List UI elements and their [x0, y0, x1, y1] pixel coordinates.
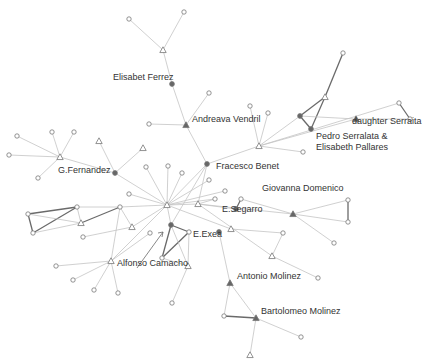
- circle-node-icon: [341, 51, 345, 55]
- edge: [149, 124, 186, 125]
- edge: [250, 106, 259, 146]
- circle-node-icon: [397, 101, 401, 105]
- circle-node-icon: [248, 104, 252, 108]
- edge: [250, 318, 256, 355]
- circle-node-icon: [7, 153, 11, 157]
- edge: [115, 173, 167, 205]
- label-andreava-vendril: Andreava Vendril: [192, 114, 261, 125]
- circle-node-icon: [36, 176, 40, 180]
- edge: [188, 232, 189, 266]
- edge: [120, 205, 167, 207]
- edge: [28, 214, 81, 223]
- circle-node-icon: [332, 241, 336, 245]
- edge: [9, 155, 60, 157]
- circle-node-icon: [31, 231, 35, 235]
- circle-node-icon: [301, 150, 305, 154]
- label-e-exea: E.Exea: [193, 229, 222, 240]
- circle-node-icon: [222, 314, 226, 318]
- label-bartolomeo-molinez: Bartolomeo Molinez: [261, 306, 341, 317]
- circle-node-icon: [81, 235, 85, 239]
- edge: [172, 266, 188, 303]
- edge: [186, 125, 207, 164]
- label-pedro-serralata: Pedro Serralata &: [316, 131, 388, 142]
- circle-node-icon: [75, 205, 79, 209]
- circle-node-icon: [127, 17, 131, 21]
- circle-node-icon: [148, 231, 152, 235]
- edge: [172, 84, 186, 125]
- edge: [33, 207, 77, 233]
- edge: [17, 136, 60, 157]
- edge: [171, 164, 207, 225]
- edge: [111, 233, 150, 261]
- edge: [259, 116, 300, 146]
- edge: [28, 214, 33, 233]
- circle-node-icon: [281, 231, 285, 235]
- circle-node-icon: [182, 10, 186, 14]
- circle-node-icon: [72, 130, 76, 134]
- circle-node-icon: [187, 230, 191, 234]
- circle-node-icon: [207, 178, 211, 182]
- circle-node-icon: [166, 164, 170, 168]
- circle-node-icon: [266, 111, 270, 115]
- circle-node-icon: [113, 171, 118, 176]
- circle-node-icon: [26, 212, 30, 216]
- label-fracesco-benet: Fracesco Benet: [216, 161, 279, 172]
- circle-node-icon: [316, 276, 320, 280]
- label-g-fernandez: G.Fernandez: [58, 165, 111, 176]
- circle-node-icon: [54, 264, 58, 268]
- edge: [256, 318, 301, 337]
- edge: [129, 19, 163, 50]
- triangle-node-icon: [140, 145, 146, 151]
- circle-node-icon: [50, 130, 54, 134]
- edge: [81, 207, 120, 223]
- circle-node-icon: [144, 165, 148, 169]
- edge: [28, 207, 77, 214]
- edge: [163, 12, 184, 50]
- edge: [167, 205, 171, 225]
- label-e-segarro: E.Segarro: [222, 204, 263, 215]
- edge: [115, 148, 143, 173]
- edge: [120, 207, 132, 227]
- edge: [146, 167, 167, 205]
- circle-node-icon: [15, 134, 19, 138]
- triangle-node-icon: [247, 352, 253, 358]
- edge: [293, 214, 348, 222]
- edge: [293, 214, 334, 243]
- label-giovanna-domenico: Giovanna Domenico: [262, 183, 344, 194]
- triangle-node-icon: [227, 280, 233, 286]
- edge: [230, 283, 256, 318]
- label-elisabet-ferrez: Elisabet Ferrez: [113, 72, 174, 83]
- edge: [224, 283, 230, 316]
- edge: [83, 227, 132, 237]
- circle-node-icon: [223, 189, 227, 193]
- edge: [167, 166, 168, 205]
- circle-node-icon: [299, 335, 303, 339]
- edge: [132, 205, 167, 227]
- edge: [60, 132, 74, 157]
- label-alfonso-camacho: Alfonso Camacho: [117, 258, 188, 269]
- circle-node-icon: [118, 205, 122, 209]
- edge: [38, 157, 60, 178]
- edge: [129, 194, 167, 205]
- circle-node-icon: [71, 278, 75, 282]
- triangle-node-icon: [322, 94, 328, 100]
- circle-node-icon: [170, 301, 174, 305]
- edge: [293, 200, 348, 214]
- circle-node-icon: [127, 192, 131, 196]
- edge: [272, 233, 283, 256]
- circle-node-icon: [346, 198, 350, 202]
- circle-node-icon: [205, 162, 210, 167]
- circle-node-icon: [116, 291, 120, 295]
- edge: [325, 53, 343, 97]
- nodes-layer: [7, 10, 412, 358]
- triangle-node-icon: [129, 224, 135, 230]
- circle-node-icon: [207, 91, 211, 95]
- circle-node-icon: [346, 220, 350, 224]
- label-antonio-molinez: Antonio Molinez: [237, 271, 301, 282]
- edges-layer: [9, 12, 410, 355]
- edge: [224, 316, 256, 318]
- label-daughter-serralta: daughter Serraita: [352, 116, 422, 127]
- circle-node-icon: [239, 197, 243, 201]
- triangle-node-icon: [96, 138, 102, 144]
